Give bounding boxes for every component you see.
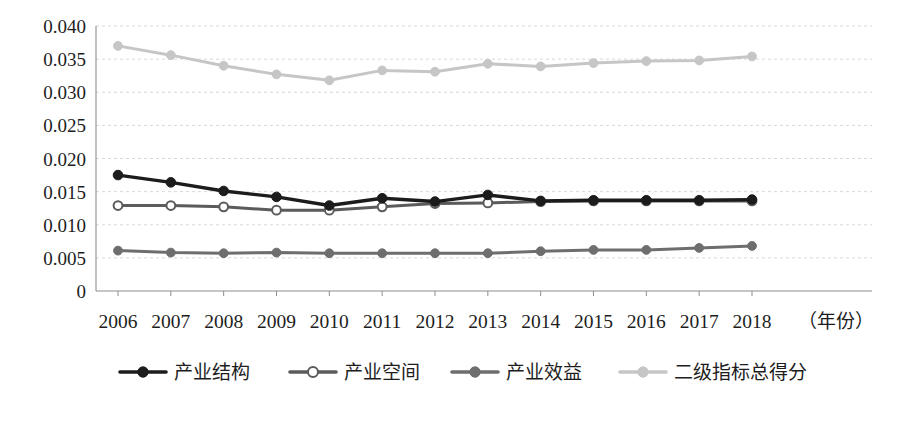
data-point: [114, 41, 123, 50]
y-tick-label: 0.015: [43, 182, 86, 203]
y-tick-label: 0.025: [43, 115, 86, 136]
data-point: [694, 195, 704, 205]
data-point: [748, 52, 757, 61]
x-tick-label: 2012: [416, 311, 455, 332]
data-point: [536, 247, 545, 256]
series-1: [113, 170, 757, 210]
legend-item-1[interactable]: 产业结构: [120, 362, 250, 383]
data-point: [589, 246, 598, 255]
x-tick-label: 2008: [204, 311, 243, 332]
data-point: [114, 201, 123, 210]
x-tick-label: 2018: [733, 311, 772, 332]
legend-item-3[interactable]: 产业效益: [452, 362, 582, 383]
legend-label: 产业结构: [174, 362, 250, 383]
data-point: [114, 246, 123, 255]
x-tick-label: 2015: [574, 311, 613, 332]
data-point: [377, 193, 387, 203]
data-point: [431, 249, 440, 258]
x-tick-label: 2009: [257, 311, 296, 332]
data-point: [483, 190, 493, 200]
x-tick-label: 2013: [468, 311, 507, 332]
y-tick-label: 0.005: [43, 248, 86, 269]
data-point: [272, 70, 281, 79]
legend-item-4[interactable]: 二级指标总得分: [620, 362, 807, 383]
data-point: [219, 61, 228, 70]
data-point: [219, 202, 228, 211]
y-tick-labels: 0.0400.0350.0300.0250.0200.0150.0100.005…: [43, 16, 86, 302]
data-point: [272, 192, 282, 202]
data-point: [166, 51, 175, 60]
data-point: [642, 195, 652, 205]
x-tick-label: 2011: [363, 311, 401, 332]
data-point: [589, 195, 599, 205]
data-point: [378, 66, 387, 75]
data-point: [272, 248, 281, 257]
data-point: [642, 246, 651, 255]
x-tick-labels: 2006200720082009201020112012201320142015…: [99, 311, 772, 332]
x-tick-label: 2007: [151, 311, 190, 332]
x-axis-unit-label: （年份）: [798, 311, 874, 332]
x-tickmarks: [118, 291, 752, 296]
data-point: [536, 196, 546, 206]
data-point: [748, 242, 757, 251]
x-tick-label: 2017: [680, 311, 719, 332]
data-point: [642, 57, 651, 66]
data-point: [378, 202, 387, 211]
y-tick-label: 0.020: [43, 149, 86, 170]
data-point: [325, 76, 334, 85]
x-tick-label: 2016: [627, 311, 666, 332]
chart-canvas: 0.0400.0350.0300.0250.0200.0150.0100.005…: [0, 0, 910, 424]
data-point: [430, 197, 440, 207]
legend-marker: [470, 367, 480, 377]
x-tick-label: 2014: [521, 311, 560, 332]
y-tick-label: 0.010: [43, 215, 86, 236]
data-point: [166, 178, 176, 188]
data-point: [325, 201, 335, 211]
data-point: [695, 56, 704, 65]
legend-item-2[interactable]: 产业空间: [290, 362, 420, 383]
data-point: [747, 195, 757, 205]
data-point: [589, 59, 598, 68]
y-tick-label: 0.030: [43, 82, 86, 103]
y-tick-label: 0: [77, 281, 87, 302]
legend: 产业结构产业空间产业效益二级指标总得分: [120, 362, 807, 383]
legend-marker: [308, 367, 318, 377]
legend-label: 产业效益: [506, 362, 582, 383]
y-tick-label: 0.040: [43, 16, 86, 37]
data-point: [219, 249, 228, 258]
data-point: [431, 67, 440, 76]
data-point: [113, 170, 123, 180]
data-point: [166, 201, 175, 210]
x-tick-label: 2006: [99, 311, 138, 332]
x-tick-label: 2010: [310, 311, 349, 332]
data-point: [695, 244, 704, 253]
legend-marker: [138, 367, 148, 377]
line-chart: 0.0400.0350.0300.0250.0200.0150.0100.005…: [0, 0, 910, 424]
data-point: [272, 206, 281, 215]
legend-label: 产业空间: [344, 362, 420, 383]
data-point: [219, 186, 229, 196]
legend-label: 二级指标总得分: [674, 362, 807, 383]
data-point: [166, 248, 175, 257]
data-point: [483, 249, 492, 258]
legend-marker: [638, 367, 648, 377]
data-point: [378, 249, 387, 258]
data-point: [483, 59, 492, 68]
y-tick-label: 0.035: [43, 49, 86, 70]
data-point: [325, 249, 334, 258]
series-4: [114, 41, 757, 84]
series-3: [114, 242, 757, 258]
data-point: [536, 62, 545, 71]
